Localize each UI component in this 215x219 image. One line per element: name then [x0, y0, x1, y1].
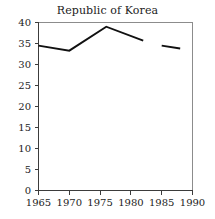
y-tick-label: 35 [18, 38, 31, 49]
y-tick-label: 10 [18, 143, 31, 154]
chart-container: Republic of Korea 40 35 30 25 20 15 [0, 0, 215, 219]
y-tick-label: 0 [25, 185, 31, 196]
x-tick-label: 1965 [26, 197, 51, 208]
x-axis-ticks [39, 191, 193, 195]
chart-plot-area: 40 35 30 25 20 15 10 5 0 1965 1970 1975 … [0, 0, 215, 219]
x-tick-label: 1970 [57, 197, 82, 208]
y-tick-label: 15 [18, 122, 31, 133]
y-tick-label: 20 [18, 101, 31, 112]
x-tick-label: 1985 [149, 197, 174, 208]
y-axis-ticks [35, 23, 39, 191]
y-tick-label: 25 [18, 80, 31, 91]
y-tick-label: 40 [18, 17, 31, 28]
x-tick-label: 1975 [87, 197, 112, 208]
data-line-segment [162, 46, 180, 49]
data-line-segment [39, 27, 144, 51]
y-axis-labels: 40 35 30 25 20 15 10 5 0 [18, 17, 31, 196]
x-tick-label: 1990 [180, 197, 205, 208]
x-axis-labels: 1965 1970 1975 1980 1985 1990 [26, 197, 205, 208]
data-series-layer [39, 27, 181, 51]
y-tick-label: 30 [18, 59, 31, 70]
x-tick-label: 1980 [118, 197, 143, 208]
y-tick-label: 5 [25, 164, 31, 175]
